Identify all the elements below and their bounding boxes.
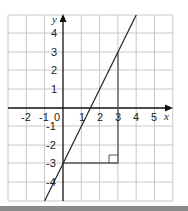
coordinate-graph: -2-10 123 45 4321 -1-2-3-4 x y [0,0,188,206]
svg-text:1: 1 [79,111,85,123]
svg-text:4: 4 [51,27,57,39]
svg-text:-1: -1 [46,120,56,132]
bottom-bar [0,206,188,211]
svg-text:y: y [51,13,57,25]
svg-text:3: 3 [115,111,121,123]
svg-text:5: 5 [151,111,157,123]
svg-text:-4: -4 [46,176,56,188]
tick-labels: -2-10 123 45 4321 -1-2-3-4 x y [21,13,169,188]
svg-text:3: 3 [51,46,57,58]
svg-text:x: x [163,110,169,122]
svg-text:-2: -2 [46,139,56,151]
svg-text:-3: -3 [46,157,56,169]
svg-text:1: 1 [51,83,57,95]
axes [8,20,168,201]
svg-text:2: 2 [51,64,57,76]
svg-text:2: 2 [97,111,103,123]
svg-text:4: 4 [133,111,139,123]
svg-text:-2: -2 [21,111,31,123]
